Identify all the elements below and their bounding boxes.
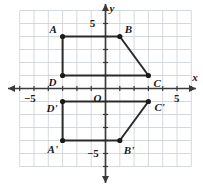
vertex-label-C-prime: C' <box>154 102 164 113</box>
coordinate-plane-figure: x y O −5 5 5 −5 ABCDA'B'C'D' <box>0 0 203 187</box>
tick-label-y-positive-5: 5 <box>90 18 96 29</box>
tick-label-x-negative-5: −5 <box>24 93 36 104</box>
tick-label-x-positive-5: 5 <box>174 93 180 104</box>
origin-label: O <box>94 93 102 104</box>
vertex-label-A: A <box>50 24 57 35</box>
vertex-label-B: B <box>125 24 132 35</box>
vertex-label-D: D <box>49 77 57 88</box>
x-axis-label: x <box>192 72 198 83</box>
vertex-label-B-prime: B' <box>124 145 134 156</box>
vertex-label-A-prime: A' <box>48 144 58 155</box>
axes <box>8 4 196 183</box>
vertex-label-C: C <box>153 78 160 89</box>
tick-label-y-negative-5: −5 <box>87 148 99 159</box>
vertex-label-D-prime: D' <box>47 103 58 114</box>
y-axis-label: y <box>110 3 115 14</box>
